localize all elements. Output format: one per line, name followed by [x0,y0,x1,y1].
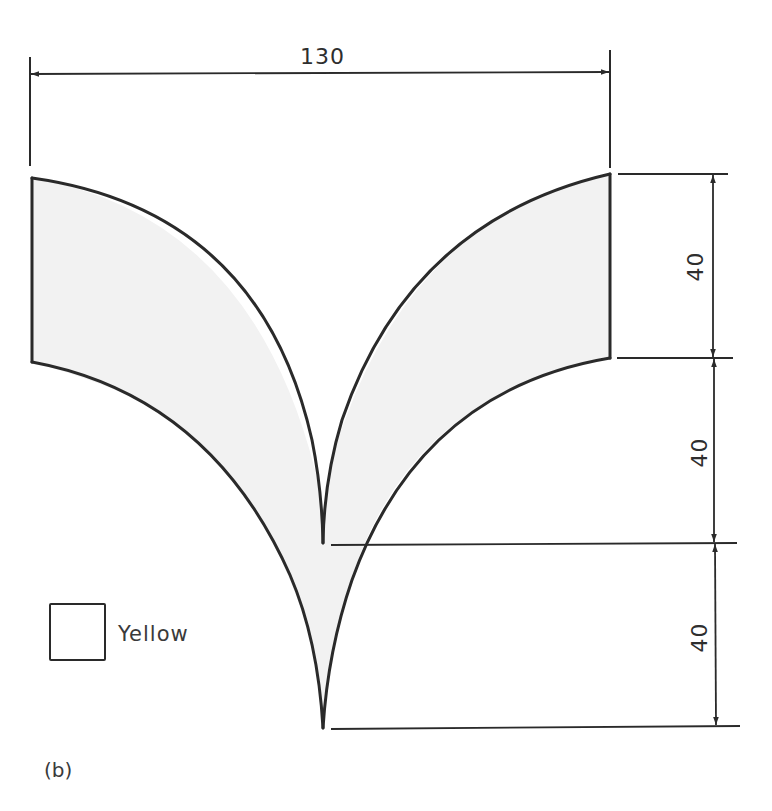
dimension-line-horizontal [31,72,609,74]
dimension-line-3 [715,544,716,725]
height-label-3: 40 [687,623,712,653]
width-label: 130 [300,44,345,69]
extension-line-4 [331,726,740,729]
legend-swatch-yellow [49,603,106,661]
technical-drawing [0,0,772,811]
figure-caption: (b) [44,758,72,782]
height-label-1: 40 [683,252,708,282]
extension-line-3 [331,543,737,545]
height-label-2: 40 [687,438,712,468]
legend-label: Yellow [118,622,189,646]
